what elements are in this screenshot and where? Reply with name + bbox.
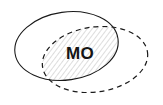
intersection-label: MO — [66, 44, 94, 63]
venn-diagram-canvas: MO — [0, 0, 163, 105]
venn-diagram-svg: MO — [0, 0, 163, 105]
